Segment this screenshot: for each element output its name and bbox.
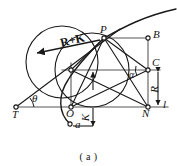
label-point-o: O — [66, 108, 74, 119]
label-line-l: l — [163, 99, 166, 110]
figure-container: R+K P B C N O T a l θ α R K ( a ) — [0, 0, 177, 166]
point-marker-m — [69, 68, 73, 72]
label-point-n: N — [142, 108, 149, 119]
label-angle-alpha: α — [129, 70, 134, 80]
label-dimension-r: R — [149, 86, 160, 93]
geometry-drawing — [0, 0, 177, 166]
label-point-c: C — [152, 57, 159, 68]
point-marker-p — [102, 36, 106, 40]
angle-arc-alpha — [135, 66, 137, 76]
point-marker-c — [146, 68, 150, 72]
label-point-b: B — [153, 29, 160, 40]
label-dimension-k: K — [80, 114, 91, 121]
point-marker-b — [146, 36, 150, 40]
segment-p-c — [104, 38, 148, 70]
figure-caption: ( a ) — [0, 151, 177, 162]
point-markers — [14, 36, 150, 126]
point-marker-a — [68, 122, 72, 126]
upper-arc-curve — [104, 9, 176, 38]
label-point-t: T — [12, 109, 18, 120]
label-point-p: P — [100, 24, 107, 35]
label-angle-theta: θ — [32, 93, 37, 104]
